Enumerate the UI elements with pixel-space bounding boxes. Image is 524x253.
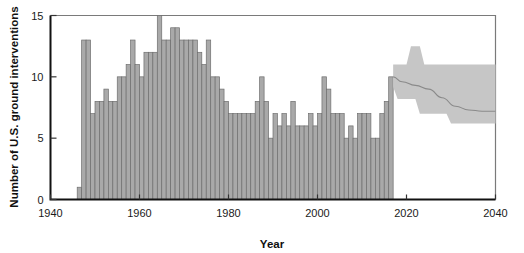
histogram-bar [104,89,108,199]
histogram-bar [148,52,152,199]
histogram-bar [277,126,281,200]
histogram-bar [135,65,139,200]
histogram-bar [300,126,304,200]
histogram-bar [233,114,237,200]
histogram-bar [108,101,112,199]
histogram-bar [375,138,379,199]
histogram-bar [380,114,384,200]
histogram-bar [371,138,375,199]
histogram-bar [140,77,144,200]
histogram-bar [224,101,228,199]
histogram-bar [220,89,224,199]
histogram-bar [291,101,295,199]
histogram-bar [126,65,130,200]
histogram-bar [180,40,184,199]
histogram-bar [246,114,250,200]
histogram-bar [304,126,308,200]
histogram-bar [193,40,197,199]
histogram-bar [215,77,219,200]
x-tick-label: 2020 [394,207,418,219]
ground-interventions-chart: 194019601980200020202040051015 Number of… [0,0,524,253]
histogram-bar [211,77,215,200]
histogram-bar [166,40,170,199]
histogram-bar [77,187,81,199]
histogram-bar [99,101,103,199]
histogram-bar [175,28,179,200]
histogram-bar [362,114,366,200]
histogram-bar [335,114,339,200]
histogram-bar [86,40,90,199]
histogram-bar [344,138,348,199]
histogram-bar [358,114,362,200]
histogram-bar [331,114,335,200]
histogram-bar [366,114,370,200]
histogram-bar [197,52,201,199]
histogram-bar [349,126,353,200]
histogram-bar [340,114,344,200]
histogram-bar [318,114,322,200]
histogram-bar [82,40,86,199]
histogram-bar [251,114,255,200]
x-tick-label: 1940 [38,207,62,219]
histogram-bar [113,101,117,199]
histogram-bar [229,114,233,200]
histogram-bar [188,40,192,199]
y-tick-label: 0 [37,194,43,206]
histogram-bar [322,77,326,200]
histogram-bar [95,101,99,199]
histogram-bar [309,114,313,200]
histogram-bar [157,16,161,200]
chart-container: 194019601980200020202040051015 Number of… [0,0,524,253]
histogram-bar [384,101,388,199]
y-tick-label: 5 [37,132,43,144]
histogram-bar [286,126,290,200]
x-tick-label: 2000 [305,207,329,219]
histogram-bar [237,114,241,200]
x-tick-label: 2040 [483,207,507,219]
histogram-bar [260,77,264,200]
histogram-bar [269,138,273,199]
histogram-bar [206,40,210,199]
histogram-bar [144,52,148,199]
histogram-bar [353,138,357,199]
histogram-bar [282,114,286,200]
histogram-bar [326,89,330,199]
histogram-bar [255,101,259,199]
x-axis-title: Year [260,238,285,250]
histogram-bar [264,101,268,199]
x-tick-label: 1980 [216,207,240,219]
histogram-bar [162,40,166,199]
histogram-bar [184,40,188,199]
histogram-bar [131,40,135,199]
histogram-bar [153,52,157,199]
histogram-bar [202,65,206,200]
histogram-bar [242,114,246,200]
histogram-bar [295,126,299,200]
histogram-bar [122,77,126,200]
histogram-bar [91,114,95,200]
histogram-bar [171,28,175,200]
y-tick-label: 15 [31,10,43,22]
histogram-bar [117,77,121,200]
x-tick-label: 1960 [127,207,151,219]
y-axis-title: Number of U.S. ground interventions [8,6,20,207]
histogram-bar [389,77,393,200]
y-tick-label: 10 [31,71,43,83]
histogram-bar [313,126,317,200]
histogram-bar [273,114,277,200]
